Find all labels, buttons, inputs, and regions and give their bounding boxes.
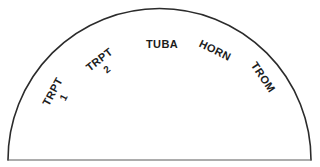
- diagram-canvas: TRPT 1 TRPT 2 TUBA HORN TROM: [0, 0, 320, 167]
- section-label-tuba: TUBA: [146, 39, 178, 50]
- section-label-text: TUBA: [146, 38, 178, 50]
